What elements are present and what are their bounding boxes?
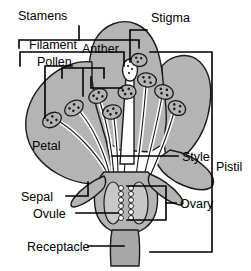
diagram-canvas: Stamens Filament Pollen Anther Stigma Pe…: [0, 0, 251, 271]
receptacle: [110, 230, 139, 266]
label-stamens: Stamens: [18, 9, 67, 23]
label-style: Style: [182, 150, 210, 164]
label-anther: Anther: [82, 42, 119, 56]
label-ovary: Ovary: [180, 197, 214, 211]
flower-anatomy-diagram: Stamens Filament Pollen Anther Stigma Pe…: [0, 0, 251, 271]
label-sepal: Sepal: [21, 190, 53, 204]
label-pollen: Pollen: [37, 55, 72, 69]
label-receptacle: Receptacle: [27, 240, 90, 254]
label-petal: Petal: [32, 139, 61, 153]
label-ovule: Ovule: [33, 207, 66, 221]
label-filament: Filament: [29, 38, 77, 52]
label-pistil: Pistil: [216, 160, 242, 174]
label-stigma: Stigma: [151, 11, 190, 25]
